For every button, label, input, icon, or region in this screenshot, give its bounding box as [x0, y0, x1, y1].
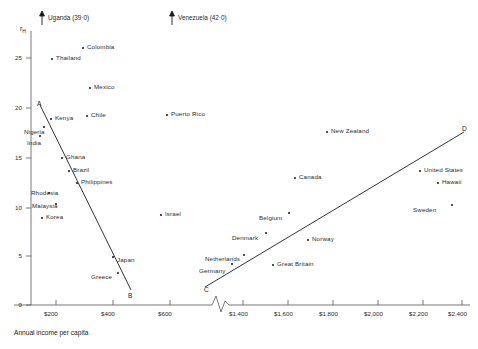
data-point-label: Kenya	[55, 115, 73, 121]
data-point-label: Ghana	[66, 154, 85, 160]
y-tick-label: 5	[6, 253, 22, 259]
x-tick-label: $2,200	[409, 311, 428, 317]
data-point-label: India	[27, 140, 41, 146]
data-point-marker	[243, 254, 245, 256]
data-point-marker	[294, 177, 296, 179]
data-point-marker	[117, 272, 119, 274]
data-point-marker	[265, 232, 267, 234]
data-point-marker	[160, 214, 162, 216]
data-point-label: United States	[424, 167, 463, 173]
y-tick-label: 15	[6, 155, 22, 161]
trend-line-endpoint-label: B	[128, 293, 132, 300]
data-point-marker	[51, 58, 53, 60]
data-point-marker	[76, 182, 78, 184]
data-point-marker	[272, 264, 274, 266]
x-tick-label: $1,400	[229, 311, 248, 317]
data-point-marker	[82, 47, 84, 49]
data-point-label: Philippines	[81, 179, 113, 185]
data-point-label: Chile	[91, 112, 106, 118]
data-point-label: Malaysia	[32, 203, 58, 209]
x-axis-ticks	[56, 300, 462, 305]
data-point-label: Greece	[91, 274, 112, 280]
data-point-label: Belgium	[259, 215, 282, 221]
data-point-label: Norway	[312, 236, 334, 242]
scatter-plot-canvas	[0, 0, 478, 349]
data-point-marker	[68, 170, 70, 172]
x-tick-label: $200	[44, 311, 58, 317]
x-tick-label: $2,000	[364, 311, 383, 317]
x-axis-title: Annual income per capita	[14, 330, 88, 337]
y-axis-title: rH	[20, 26, 26, 34]
data-point-label: Canada	[299, 174, 322, 180]
y-tick-label: 25	[6, 55, 22, 61]
data-point-label: New Zealand	[331, 128, 369, 134]
data-point-marker	[326, 131, 328, 133]
data-point-label: Korea	[46, 214, 63, 220]
data-point-label: Sweden	[413, 207, 436, 213]
trend-line-endpoint-label: A	[37, 101, 41, 108]
data-point-marker	[166, 114, 168, 116]
data-point-label: Hawaii	[442, 179, 461, 185]
data-point-label: Nigeria	[24, 129, 45, 135]
data-point-marker	[89, 87, 91, 89]
data-point-marker	[41, 217, 43, 219]
y-tick-label: 20	[6, 105, 22, 111]
data-point-label: Rhodesia	[31, 190, 58, 196]
data-point-label: Colombia	[87, 44, 114, 50]
data-point-marker	[437, 182, 439, 184]
data-point-marker	[50, 118, 52, 120]
data-point-label: Israel	[165, 211, 181, 217]
uganda-offscale-annotation: Uganda (39·0)	[48, 15, 89, 21]
data-point-marker	[307, 239, 309, 241]
trend-lines-group	[40, 105, 464, 290]
data-point-label: Mexico	[94, 84, 115, 90]
data-point-marker	[288, 212, 290, 214]
x-tick-label: $1,800	[319, 311, 338, 317]
data-point-marker	[86, 115, 88, 117]
x-tick-label: $400	[101, 311, 115, 317]
venezuela-arrow-icon	[170, 11, 175, 25]
data-point-marker	[61, 157, 63, 159]
data-point-label: Brazil	[73, 167, 89, 173]
venezuela-offscale-annotation: Venezuela (42·0)	[178, 15, 227, 21]
data-point-marker	[39, 135, 41, 137]
y-tick-label: 0	[6, 302, 22, 308]
data-point-marker	[419, 170, 421, 172]
y-tick-label: 10	[6, 205, 22, 211]
x-axis-break-zigzag	[212, 296, 229, 312]
trend-line-endpoint-label: D	[462, 126, 467, 133]
data-point-label: Netherlands	[205, 256, 240, 262]
data-point-label: Thailand	[56, 55, 81, 61]
x-tick-label: $2,400	[448, 311, 467, 317]
data-point-label: Great Britain	[277, 261, 314, 267]
data-point-label: Denmark	[232, 235, 258, 241]
data-point-label: Japan	[117, 257, 135, 263]
uganda-arrow-icon	[40, 11, 45, 25]
x-tick-label: $600	[158, 311, 172, 317]
trend-line-endpoint-label: C	[204, 287, 209, 294]
data-point-marker	[231, 263, 233, 265]
data-point-label: Germany	[199, 268, 226, 274]
data-point-marker	[451, 204, 453, 206]
data-point-label: Puerto Rico	[171, 111, 205, 117]
y-axis-title-sub: H	[22, 28, 26, 34]
data-point-marker	[112, 256, 114, 258]
y-axis-ticks	[26, 58, 31, 305]
x-tick-label: $1,600	[274, 311, 293, 317]
